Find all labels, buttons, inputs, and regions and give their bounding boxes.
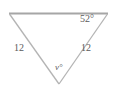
side-length-label-right: 12 — [81, 43, 91, 53]
angle-label-top-right: 52° — [80, 14, 94, 24]
triangle-diagram: 52° 12 12 v° — [0, 0, 117, 97]
angle-label-bottom-vertex: v° — [55, 62, 63, 72]
side-length-label-left: 12 — [14, 43, 24, 53]
